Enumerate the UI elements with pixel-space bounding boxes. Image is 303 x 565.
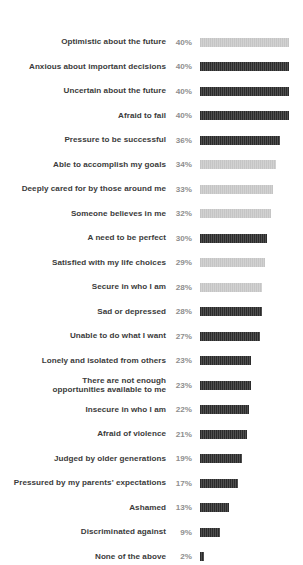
bar-row: Pressured by my parents' expectations17% [0, 471, 303, 496]
bar-track [200, 160, 303, 169]
bar-category-label: Secure in who I am [0, 282, 166, 292]
bar-category-label: Pressured by my parents' expectations [0, 478, 166, 488]
bar-fill [200, 381, 251, 390]
bar-track [200, 356, 303, 365]
bar-fill [200, 332, 260, 341]
bar-row: Ashamed13% [0, 496, 303, 521]
bar-category-label: Uncertain about the future [0, 86, 166, 96]
bar-track [200, 479, 303, 488]
bar-fill [200, 38, 289, 47]
bar-value-label: 40% [166, 62, 200, 71]
bar-category-label: Sad or depressed [0, 307, 166, 317]
bar-value-label: 40% [166, 111, 200, 120]
bar-track [200, 234, 303, 243]
bar-category-label: A need to be perfect [0, 233, 166, 243]
bar-track [200, 503, 303, 512]
bar-track [200, 528, 303, 537]
bar-track [200, 332, 303, 341]
bar-row: Judged by older generations19% [0, 447, 303, 472]
bar-category-label: Anxious about important decisions [0, 62, 166, 72]
bar-fill [200, 111, 289, 120]
bar-track [200, 87, 303, 96]
bar-row: Uncertain about the future40% [0, 79, 303, 104]
bar-row: Unable to do what I want27% [0, 324, 303, 349]
bar-fill [200, 405, 249, 414]
bar-row: Satisfied with my life choices29% [0, 251, 303, 276]
bar-row: Deeply cared for by those around me33% [0, 177, 303, 202]
bar-value-label: 13% [166, 503, 200, 512]
bar-category-label: Insecure in who I am [0, 405, 166, 415]
bar-fill [200, 479, 238, 488]
bar-value-label: 2% [166, 552, 200, 561]
bar-track [200, 62, 303, 71]
bar-row: Discriminated against9% [0, 520, 303, 545]
bar-fill [200, 454, 242, 463]
bar-fill [200, 552, 204, 561]
bar-row: Afraid of violence21% [0, 422, 303, 447]
bar-row: None of the above2% [0, 545, 303, 565]
bar-category-label: Unable to do what I want [0, 331, 166, 341]
bar-category-label: Deeply cared for by those around me [0, 184, 166, 194]
bar-row: Lonely and isolated from others23% [0, 349, 303, 374]
bar-value-label: 40% [166, 87, 200, 96]
bar-track [200, 38, 303, 47]
bar-track [200, 111, 303, 120]
bar-category-label: There are not enough opportunities avail… [0, 376, 166, 395]
bar-value-label: 36% [166, 136, 200, 145]
bar-fill [200, 87, 289, 96]
bar-category-label: Ashamed [0, 503, 166, 513]
bar-row: Pressure to be successful36% [0, 128, 303, 153]
bar-fill [200, 234, 267, 243]
bar-track [200, 430, 303, 439]
bar-fill [200, 356, 251, 365]
bar-row: Afraid to fail40% [0, 104, 303, 129]
bar-category-label: Satisfied with my life choices [0, 258, 166, 268]
bar-value-label: 40% [166, 38, 200, 47]
bar-fill [200, 185, 273, 194]
bar-track [200, 185, 303, 194]
bar-value-label: 33% [166, 185, 200, 194]
bar-category-label: Discriminated against [0, 527, 166, 537]
bar-track [200, 209, 303, 218]
bar-fill [200, 503, 229, 512]
bar-category-label: Judged by older generations [0, 454, 166, 464]
bar-category-label: Afraid of violence [0, 429, 166, 439]
bar-fill [200, 307, 262, 316]
bar-value-label: 23% [166, 356, 200, 365]
bar-fill [200, 528, 220, 537]
bar-track [200, 258, 303, 267]
bar-fill [200, 209, 271, 218]
bar-track [200, 307, 303, 316]
bar-category-label: Someone believes in me [0, 209, 166, 219]
bar-track [200, 552, 303, 561]
bar-value-label: 17% [166, 479, 200, 488]
bar-track [200, 283, 303, 292]
bar-track [200, 405, 303, 414]
bar-value-label: 21% [166, 430, 200, 439]
bar-value-label: 32% [166, 209, 200, 218]
bar-row: Optimistic about the future40% [0, 30, 303, 55]
bar-track [200, 136, 303, 145]
bar-row: Secure in who I am28% [0, 275, 303, 300]
bar-value-label: 29% [166, 258, 200, 267]
bar-value-label: 30% [166, 234, 200, 243]
bar-row: Insecure in who I am22% [0, 398, 303, 423]
bar-value-label: 28% [166, 283, 200, 292]
bar-fill [200, 430, 247, 439]
bar-value-label: 23% [166, 381, 200, 390]
bar-category-label: Afraid to fail [0, 111, 166, 121]
bar-category-label: None of the above [0, 552, 166, 562]
bar-fill [200, 136, 280, 145]
bar-category-label: Pressure to be successful [0, 135, 166, 145]
bar-category-label: Optimistic about the future [0, 37, 166, 47]
bar-value-label: 22% [166, 405, 200, 414]
bar-fill [200, 62, 289, 71]
bar-row: Able to accomplish my goals34% [0, 153, 303, 178]
bar-track [200, 381, 303, 390]
bar-value-label: 28% [166, 307, 200, 316]
bar-track [200, 454, 303, 463]
bar-fill [200, 283, 262, 292]
bar-row: A need to be perfect30% [0, 226, 303, 251]
bar-value-label: 19% [166, 454, 200, 463]
